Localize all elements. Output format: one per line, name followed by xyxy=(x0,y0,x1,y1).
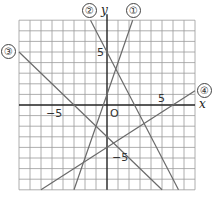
y-tick-neg5: −5 xyxy=(112,152,128,163)
coordinate-grid xyxy=(0,0,215,199)
y-tick-pos5: 5 xyxy=(97,47,104,58)
line-label-1: ① xyxy=(126,3,141,18)
line-label-2: ② xyxy=(82,3,97,18)
y-axis-label: y xyxy=(101,4,108,16)
x-tick-neg5: −5 xyxy=(46,108,62,119)
line-label-3: ③ xyxy=(1,44,16,59)
x-axis-label: x xyxy=(199,98,206,110)
line-3 xyxy=(19,52,162,190)
x-tick-pos5: 5 xyxy=(158,93,165,104)
line-label-4: ④ xyxy=(197,83,212,98)
origin-label: O xyxy=(110,108,119,119)
